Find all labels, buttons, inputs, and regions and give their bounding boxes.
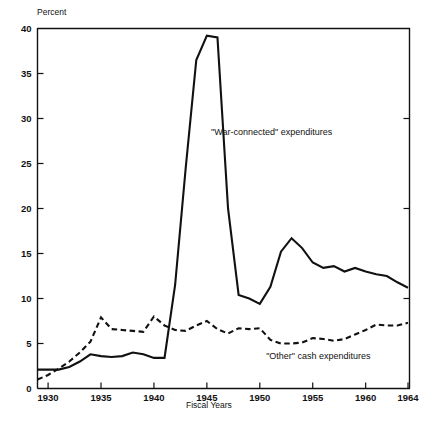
expenditures-line-chart: Percent 0510152025303540 193019351940194… bbox=[0, 0, 423, 424]
y-axis-title: Percent bbox=[37, 7, 67, 17]
x-tick-label-1950: 1950 bbox=[249, 392, 270, 403]
data-series-group bbox=[38, 36, 409, 380]
y-tick-label-20: 20 bbox=[21, 203, 32, 214]
y-tick-label-0: 0 bbox=[26, 383, 31, 394]
y-tick-label-15: 15 bbox=[21, 248, 32, 259]
series-label-other-cash: "Other" cash expenditures bbox=[266, 351, 371, 361]
x-tick-label-1964: 1964 bbox=[397, 392, 419, 403]
series-line-other-cash bbox=[38, 317, 409, 380]
y-tick-label-35: 35 bbox=[21, 68, 32, 79]
series-label-war-connected: "War-connected" expenditures bbox=[211, 127, 333, 137]
x-tick-label-1935: 1935 bbox=[90, 392, 112, 403]
y-tick-label-30: 30 bbox=[21, 113, 32, 124]
y-tick-label-5: 5 bbox=[26, 338, 32, 349]
y-axis-ticks: 0510152025303540 bbox=[21, 23, 44, 394]
y-tick-label-10: 10 bbox=[21, 293, 32, 304]
chart-container: Percent 0510152025303540 193019351940194… bbox=[0, 0, 423, 424]
x-axis-title: Fiscal Years bbox=[186, 400, 232, 410]
x-tick-label-1930: 1930 bbox=[38, 392, 59, 403]
series-line-war-connected bbox=[38, 36, 409, 370]
right-axis-ticks bbox=[404, 119, 410, 299]
y-tick-label-25: 25 bbox=[21, 158, 32, 169]
x-tick-label-1940: 1940 bbox=[143, 392, 164, 403]
x-tick-label-1960: 1960 bbox=[355, 392, 376, 403]
x-tick-label-1955: 1955 bbox=[302, 392, 324, 403]
y-tick-label-40: 40 bbox=[21, 23, 32, 34]
series-annotations: "War-connected" expenditures"Other" cash… bbox=[211, 127, 371, 361]
